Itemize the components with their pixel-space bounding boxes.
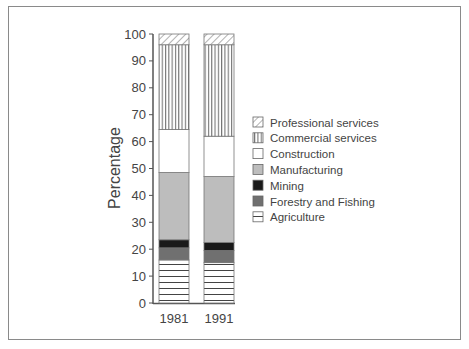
legend-label: Mining [270,180,304,192]
legend-item-manufacturing: Manufacturing [253,164,343,176]
bar-segment-mining [159,240,189,248]
legend-label: Construction [270,148,335,160]
legend-swatch [253,117,263,127]
bar-segment-commercial-services [204,45,234,136]
y-tick-label: 90 [132,53,146,68]
legend-label: Manufacturing [270,164,343,176]
bar-segment-manufacturing [159,173,189,240]
legend-swatch [253,149,263,159]
legend-label: Agriculture [270,211,325,223]
bar-segment-construction [159,129,189,172]
y-tick-label: 50 [132,161,146,176]
y-axis: 0102030405060708090100 [124,27,153,311]
y-tick-label: 10 [132,269,146,284]
y-tick-label: 40 [132,188,146,203]
bar-segment-agriculture [204,263,234,303]
legend-swatch [253,133,263,143]
bar-1981 [159,34,189,303]
bar-segment-professional-services [159,34,189,45]
legend-item-mining: Mining [253,180,304,192]
legend-label: Forestry and Fishing [270,196,375,208]
legend-swatch [253,212,263,222]
legend-swatch [253,164,263,174]
bar-segment-mining [204,242,234,250]
legend-swatch [253,196,263,206]
y-tick-label: 70 [132,107,146,122]
legend-item-forestry-and-fishing: Forestry and Fishing [253,196,375,208]
x-tick-label: 1981 [160,311,189,326]
bar-segment-professional-services [204,34,234,45]
legend-label: Professional services [270,117,379,129]
y-tick-label: 30 [132,215,146,230]
x-axis-labels: 19811991 [160,311,234,326]
bar-1991 [204,34,234,303]
bar-segment-manufacturing [204,177,234,243]
y-tick-label: 60 [132,134,146,149]
bar-segment-forestry-and-fishing [159,248,189,260]
legend-swatch [253,180,263,190]
bar-segment-forestry-and-fishing [204,251,234,263]
y-tick-label: 100 [124,27,146,42]
y-tick-label: 80 [132,80,146,95]
legend: Professional servicesCommercial services… [253,117,379,224]
y-axis-title: Percentage [106,127,123,209]
y-tick-label: 0 [139,296,146,311]
legend-item-agriculture: Agriculture [253,211,325,223]
bar-segment-agriculture [159,260,189,303]
x-tick-label: 1991 [205,311,234,326]
bar-segment-construction [204,136,234,176]
stacked-bar-chart: 0102030405060708090100 19811991 Professi… [0,0,469,349]
legend-item-commercial-services: Commercial services [253,132,377,144]
legend-label: Commercial services [270,132,377,144]
bars [153,34,235,304]
legend-item-construction: Construction [253,148,335,160]
y-tick-label: 20 [132,242,146,257]
legend-item-professional-services: Professional services [253,117,379,129]
bar-segment-commercial-services [159,45,189,130]
